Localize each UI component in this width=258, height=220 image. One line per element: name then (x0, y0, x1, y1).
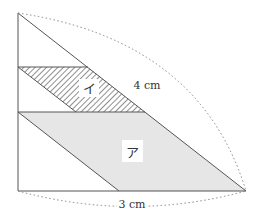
label-region-i: イ (83, 81, 96, 96)
label-hypotenuse-length: 4 cm (133, 79, 161, 92)
triangle-diagram: イ ア 4 cm 3 cm (0, 0, 258, 220)
label-base-length: 3 cm (118, 198, 146, 211)
label-region-a: ア (126, 145, 139, 160)
